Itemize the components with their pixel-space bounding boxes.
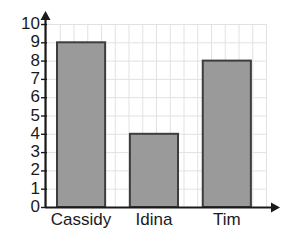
- bar-chart: 109876543210 CassidyIdinaTim: [0, 0, 290, 242]
- x-axis-label-tim: Tim: [167, 211, 287, 229]
- x-axis-category-labels: CassidyIdinaTim: [0, 0, 290, 242]
